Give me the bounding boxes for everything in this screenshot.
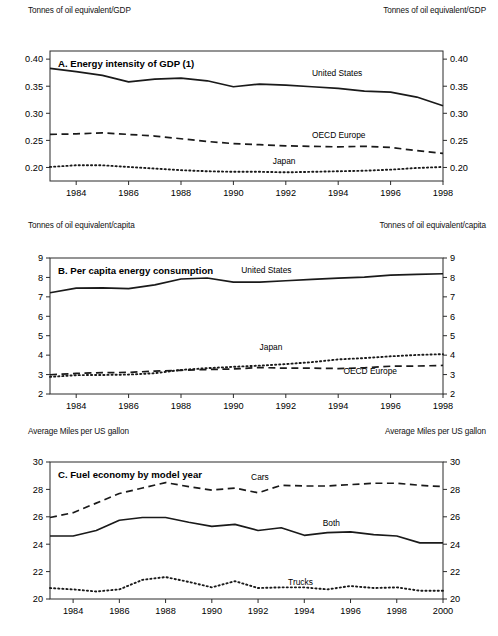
panel-title: B. Per capita energy consumption bbox=[58, 265, 213, 276]
x-tick-label: 1986 bbox=[109, 606, 129, 616]
y-tick-label-right: 8 bbox=[450, 273, 455, 283]
x-tick-label: 1988 bbox=[155, 606, 175, 616]
y-tick-label-right: 30 bbox=[450, 457, 460, 467]
x-tick-label: 1984 bbox=[66, 188, 86, 198]
y-tick-label-right: 5 bbox=[450, 331, 455, 341]
panel-b-unit-left: Tonnes of oil equivalent/capita bbox=[28, 221, 135, 230]
y-tick-label-left: 8 bbox=[38, 273, 43, 283]
x-tick-label: 1986 bbox=[118, 401, 138, 411]
y-tick-label-left: 28 bbox=[33, 485, 43, 495]
panel-a-unit-row: Tonnes of oil equivalent/GDP Tonnes of o… bbox=[0, 0, 498, 16]
y-tick-label-left: 24 bbox=[33, 540, 43, 550]
x-tick-label: 1992 bbox=[248, 606, 268, 616]
x-tick-label: 1996 bbox=[380, 188, 400, 198]
y-tick-label-left: 2 bbox=[38, 389, 43, 399]
y-tick-label-right: 0.40 bbox=[450, 54, 468, 64]
series-label-japan: Japan bbox=[273, 156, 296, 166]
panel-b-plot: 2233445566778899198419861988199019921994… bbox=[0, 231, 498, 421]
series-line-united-states bbox=[50, 274, 443, 293]
y-tick-label-right: 7 bbox=[450, 292, 455, 302]
series-line-cars bbox=[50, 483, 443, 518]
panel-b-unit-row: Tonnes of oil equivalent/capita Tonnes o… bbox=[0, 215, 498, 231]
y-tick-label-left: 0.35 bbox=[25, 82, 43, 92]
series-label-oecd-europe: OECD Europe bbox=[343, 366, 397, 376]
y-tick-label-right: 3 bbox=[450, 370, 455, 380]
panel-c-unit-right: Average Miles per US gallon bbox=[385, 427, 486, 436]
panel-b-unit-right: Tonnes of oil equivalent/capita bbox=[379, 221, 486, 230]
series-label-cars: Cars bbox=[251, 472, 269, 482]
x-tick-label: 1986 bbox=[118, 188, 138, 198]
y-tick-label-left: 30 bbox=[33, 457, 43, 467]
y-tick-label-left: 0.30 bbox=[25, 109, 43, 119]
x-tick-label: 1996 bbox=[380, 401, 400, 411]
x-tick-label: 1998 bbox=[433, 401, 453, 411]
y-tick-label-left: 7 bbox=[38, 292, 43, 302]
panel-c-plot: 2020222224242626282830301984198619881990… bbox=[0, 437, 498, 632]
x-tick-label: 1990 bbox=[223, 188, 243, 198]
series-line-united-states bbox=[50, 68, 443, 105]
y-tick-label-right: 2 bbox=[450, 389, 455, 399]
y-tick-label-left: 3 bbox=[38, 370, 43, 380]
panel-c-fuel-economy: Average Miles per US gallon Average Mile… bbox=[0, 421, 498, 632]
x-tick-label: 2000 bbox=[433, 606, 453, 616]
y-tick-label-left: 0.25 bbox=[25, 136, 43, 146]
energy-indicators-figure: Tonnes of oil equivalent/GDP Tonnes of o… bbox=[0, 0, 498, 636]
y-tick-label-left: 0.40 bbox=[25, 54, 43, 64]
x-tick-label: 1988 bbox=[171, 188, 191, 198]
panel-b-per-capita-consumption: Tonnes of oil equivalent/capita Tonnes o… bbox=[0, 215, 498, 421]
series-line-both bbox=[50, 517, 443, 542]
y-tick-label-left: 9 bbox=[38, 253, 43, 263]
y-tick-label-right: 20 bbox=[450, 594, 460, 604]
series-label-united-states: United States bbox=[241, 265, 291, 275]
y-tick-label-right: 24 bbox=[450, 540, 460, 550]
x-tick-label: 1992 bbox=[276, 188, 296, 198]
series-line-japan bbox=[50, 165, 443, 172]
panel-a-energy-intensity: Tonnes of oil equivalent/GDP Tonnes of o… bbox=[0, 0, 498, 215]
y-tick-label-right: 4 bbox=[450, 350, 455, 360]
y-tick-label-left: 4 bbox=[38, 350, 43, 360]
series-line-oecd-europe bbox=[50, 133, 443, 154]
panel-title: C. Fuel economy by model year bbox=[58, 469, 202, 480]
panel-a-plot: 0.200.200.250.250.300.300.350.350.400.40… bbox=[0, 16, 498, 215]
y-tick-label-right: 28 bbox=[450, 485, 460, 495]
series-label-japan: Japan bbox=[260, 342, 283, 352]
y-tick-label-left: 26 bbox=[33, 512, 43, 522]
y-tick-label-right: 0.20 bbox=[450, 163, 468, 173]
y-tick-label-left: 22 bbox=[33, 567, 43, 577]
y-tick-label-left: 20 bbox=[33, 594, 43, 604]
panel-c-unit-row: Average Miles per US gallon Average Mile… bbox=[0, 421, 498, 437]
series-line-trucks bbox=[50, 577, 443, 591]
series-label-trucks: Trucks bbox=[288, 577, 313, 587]
y-tick-label-left: 0.20 bbox=[25, 163, 43, 173]
x-tick-label: 1998 bbox=[387, 606, 407, 616]
x-tick-label: 1998 bbox=[433, 188, 453, 198]
y-tick-label-left: 5 bbox=[38, 331, 43, 341]
y-tick-label-right: 6 bbox=[450, 312, 455, 322]
x-tick-label: 1990 bbox=[223, 401, 243, 411]
panel-a-unit-right: Tonnes of oil equivalent/GDP bbox=[383, 6, 486, 15]
panel-a-unit-left: Tonnes of oil equivalent/GDP bbox=[28, 6, 131, 15]
x-tick-label: 1994 bbox=[328, 188, 348, 198]
y-tick-label-left: 6 bbox=[38, 312, 43, 322]
x-tick-label: 1984 bbox=[63, 606, 83, 616]
x-tick-label: 1994 bbox=[328, 401, 348, 411]
series-label-oecd-europe: OECD Europe bbox=[312, 130, 366, 140]
x-tick-label: 1992 bbox=[276, 401, 296, 411]
y-tick-label-right: 9 bbox=[450, 253, 455, 263]
x-tick-label: 1994 bbox=[294, 606, 314, 616]
x-tick-label: 1988 bbox=[171, 401, 191, 411]
series-label-united-states: United States bbox=[312, 68, 362, 78]
y-tick-label-right: 22 bbox=[450, 567, 460, 577]
panel-title: A. Energy intensity of GDP (1) bbox=[58, 58, 194, 69]
x-tick-label: 1984 bbox=[66, 401, 86, 411]
y-tick-label-right: 0.30 bbox=[450, 109, 468, 119]
x-tick-label: 1996 bbox=[340, 606, 360, 616]
y-tick-label-right: 0.25 bbox=[450, 136, 468, 146]
x-tick-label: 1990 bbox=[202, 606, 222, 616]
panel-c-unit-left: Average Miles per US gallon bbox=[28, 427, 129, 436]
series-label-both: Both bbox=[323, 518, 341, 528]
y-tick-label-right: 26 bbox=[450, 512, 460, 522]
y-tick-label-right: 0.35 bbox=[450, 82, 468, 92]
